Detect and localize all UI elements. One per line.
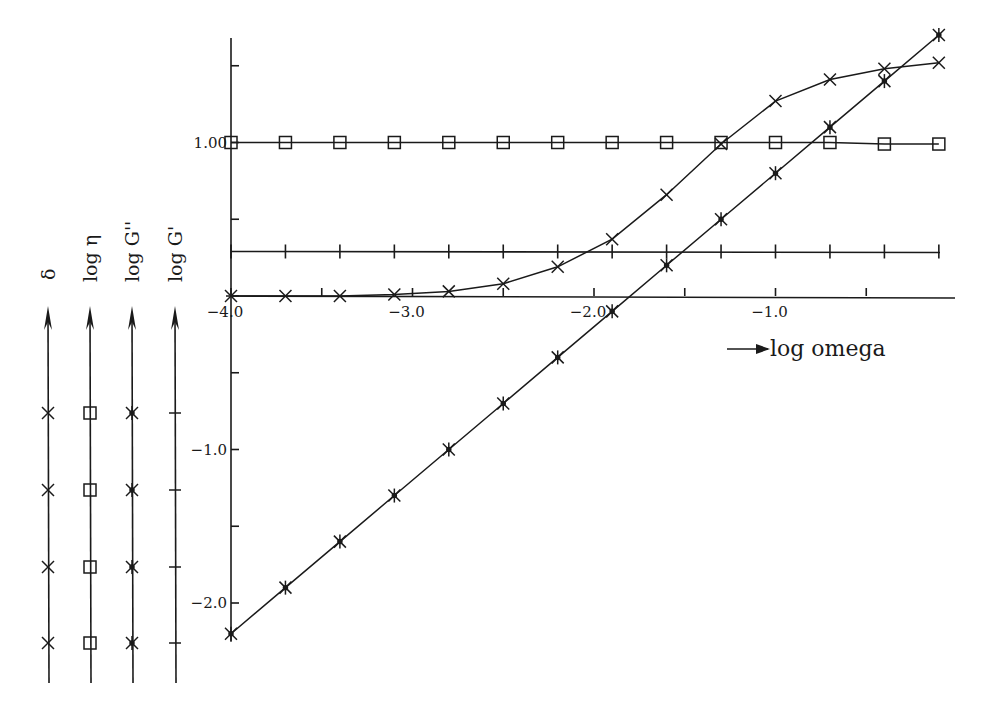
x-tick-label: −2.0 (570, 303, 606, 321)
asterisk-marker-icon (552, 350, 564, 364)
asterisk-marker-icon (770, 166, 782, 180)
x-marker-icon (606, 233, 618, 245)
legend-label: log η (79, 235, 101, 282)
asterisk-marker-icon (933, 28, 945, 42)
asterisk-marker-icon (878, 74, 890, 88)
x-marker-icon (661, 189, 673, 201)
x-tick-label: −1.0 (751, 303, 787, 321)
legend-label: log G' (164, 226, 186, 282)
x-axis-title: log omega (770, 336, 886, 361)
legend-item: log G' (164, 226, 186, 683)
asterisk-marker-icon (225, 627, 237, 641)
asterisk-marker-icon (279, 581, 291, 595)
legend-item: log η (79, 235, 101, 683)
square-marker-icon (84, 637, 96, 649)
y-tick-label: 1.00 (194, 134, 227, 152)
legend-label: δ (37, 269, 59, 280)
asterisk-marker-icon (388, 489, 400, 503)
asterisk-marker-icon (126, 406, 138, 420)
asterisk-marker-icon (126, 636, 138, 650)
x-marker-icon (770, 95, 782, 107)
x-tick-label: −4.0 (207, 303, 243, 321)
asterisk-marker-icon (334, 535, 346, 549)
legend: δlog ηlog G''log G' (37, 221, 186, 683)
asterisk-marker-icon (824, 120, 836, 134)
asterisk-marker-icon (126, 483, 138, 497)
asterisk-marker-icon (126, 560, 138, 574)
axis-labels: 1.00−1.0−2.0−4.0−3.0−2.0−1.0log omega (191, 134, 886, 613)
x-marker-icon (42, 637, 54, 649)
y-tick-label: −1.0 (191, 441, 227, 459)
arrow-head-icon (756, 344, 770, 354)
x-tick-label: −3.0 (388, 303, 424, 321)
asterisk-marker-icon (715, 212, 727, 226)
y-tick-label: −2.0 (191, 594, 227, 612)
asterisk-marker-icon (661, 258, 673, 272)
x-marker-icon (552, 261, 564, 273)
series-line (231, 143, 939, 145)
legend-item: log G'' (121, 221, 143, 683)
rheology-chart: 1.00−1.0−2.0−4.0−3.0−2.0−1.0log omega δl… (0, 0, 984, 707)
series-layer (225, 28, 945, 641)
legend-item: δ (37, 269, 59, 683)
asterisk-marker-icon (497, 396, 509, 410)
asterisk-marker-icon (606, 304, 618, 318)
legend-label: log G'' (121, 221, 143, 282)
x-marker-icon (824, 74, 836, 86)
asterisk-marker-icon (443, 443, 455, 457)
series-line (231, 63, 939, 296)
